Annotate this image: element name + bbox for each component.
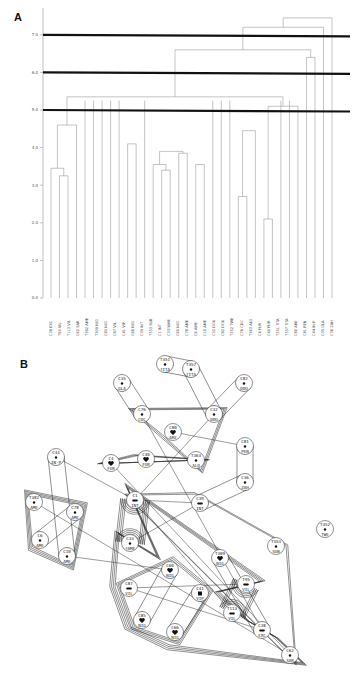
cluster-network-diagram: T351?ITAT357?ITAC35GLAC82DOUC76CDCC32DOU… bbox=[0, 0, 363, 680]
node-group-label: FUR bbox=[142, 462, 150, 467]
node-id-label: T352 bbox=[320, 522, 331, 527]
node-group-label: PEN bbox=[241, 449, 249, 454]
node-group-label: NIG bbox=[171, 635, 179, 640]
node-group-label: SAR bbox=[286, 658, 294, 663]
network-node-t353: T353SUB bbox=[268, 538, 285, 555]
dot-marker-icon bbox=[190, 368, 192, 370]
node-id-label: C10 bbox=[63, 549, 71, 554]
node-group-label: AME bbox=[36, 543, 44, 548]
network-node-t351: T351?ITA bbox=[157, 356, 174, 373]
network-node-c33: C33?AME bbox=[122, 535, 139, 552]
dot-marker-icon bbox=[244, 481, 246, 483]
node-group-label: TWE bbox=[321, 532, 329, 537]
node-group-label: AME bbox=[71, 515, 79, 520]
dot-marker-icon bbox=[141, 413, 143, 415]
node-id-label: C38 bbox=[258, 623, 266, 628]
network-node-c76: C76CDC bbox=[134, 406, 151, 423]
network-node-c62: C62SAR bbox=[282, 647, 299, 664]
node-group-label: ?AME bbox=[125, 546, 136, 551]
network-node-t95: T95VIL bbox=[238, 576, 255, 593]
cluster-link-line bbox=[56, 457, 135, 500]
network-node-c66: C66NIG bbox=[167, 624, 184, 641]
node-group-label: DOU bbox=[240, 386, 248, 391]
node-id-label: C82 bbox=[240, 376, 248, 381]
network-node-c82: C82DOU bbox=[236, 375, 253, 392]
node-group-label: INT bbox=[131, 503, 139, 508]
node-group-label: SUB bbox=[272, 549, 280, 554]
node-group-label: VIL bbox=[125, 591, 133, 596]
network-node-c4: C4FUR bbox=[103, 455, 120, 472]
node-group-label: AME bbox=[63, 559, 71, 564]
network-node-c6: C6AME bbox=[32, 532, 49, 549]
node-id-label: C85 bbox=[138, 613, 146, 618]
pair-marker-icon bbox=[126, 588, 132, 590]
pair-marker-icon bbox=[243, 584, 249, 586]
node-id-label: T363 bbox=[191, 453, 202, 458]
node-id-label: C33 bbox=[126, 536, 134, 541]
dot-marker-icon bbox=[39, 539, 41, 541]
node-group-label: VIL bbox=[242, 587, 250, 592]
node-id-label: C62 bbox=[286, 648, 294, 653]
node-id-label: T351 bbox=[160, 357, 171, 362]
network-node-t309: T309NIG bbox=[212, 550, 229, 567]
node-id-label: C87 bbox=[125, 581, 133, 586]
dot-marker-icon bbox=[275, 545, 277, 547]
dot-marker-icon bbox=[243, 382, 245, 384]
network-node-t113: T113VIL bbox=[224, 605, 241, 622]
network-node-c85: C85NIG bbox=[134, 612, 151, 629]
node-group-label: CDC bbox=[138, 417, 146, 422]
network-node-c36: C36ZAH bbox=[237, 474, 254, 491]
node-group-label: VIL bbox=[228, 616, 236, 621]
node-id-label: C36 bbox=[241, 475, 249, 480]
network-node-c44: C44IN-P bbox=[48, 449, 65, 466]
pair-marker-icon bbox=[229, 613, 235, 615]
node-group-label: DOU bbox=[210, 417, 218, 422]
dot-marker-icon bbox=[195, 459, 197, 461]
dot-marker-icon bbox=[66, 555, 68, 557]
node-id-label: C35 bbox=[118, 376, 126, 381]
node-id-label: C6 bbox=[37, 533, 43, 538]
network-node-c78: C78AME bbox=[67, 504, 84, 521]
pair-marker-icon bbox=[132, 500, 138, 502]
node-id-label: T353 bbox=[271, 539, 282, 544]
node-id-label: C78 bbox=[71, 505, 79, 510]
dot-marker-icon bbox=[121, 382, 123, 384]
node-id-label: C80 bbox=[169, 425, 177, 430]
network-node-c39: C39INT bbox=[192, 495, 209, 512]
node-id-label: T95 bbox=[242, 577, 250, 582]
network-node-t363: T363ALO bbox=[188, 452, 205, 469]
node-id-label: C4 bbox=[108, 456, 114, 461]
network-node-c81: C81PEN bbox=[237, 438, 254, 455]
network-node-c80: C80ARE bbox=[165, 424, 182, 441]
node-group-label: ?ITA bbox=[186, 372, 197, 377]
dot-marker-icon bbox=[129, 542, 131, 544]
dot-marker-icon bbox=[289, 654, 291, 656]
node-id-label: C40 bbox=[142, 452, 150, 457]
dot-marker-icon bbox=[74, 511, 76, 513]
node-id-label: T113 bbox=[227, 606, 238, 611]
dot-marker-icon bbox=[164, 363, 166, 365]
cluster-outline-large bbox=[113, 487, 303, 664]
network-node-c1: C1INT bbox=[127, 492, 144, 509]
node-group-label: ?ITA bbox=[160, 367, 171, 372]
network-node-c35: C35GLA bbox=[114, 375, 131, 392]
node-group-label: VIP bbox=[196, 596, 204, 601]
dot-marker-icon bbox=[213, 413, 215, 415]
pair-marker-icon bbox=[259, 630, 265, 632]
network-node-t357: T357?ITA bbox=[183, 361, 200, 378]
network-node-t382: T382AME bbox=[26, 494, 43, 511]
node-id-label: C76 bbox=[138, 407, 146, 412]
network-node-c40: C40FUR bbox=[138, 451, 155, 468]
dot-marker-icon bbox=[33, 501, 35, 503]
node-id-label: C44 bbox=[52, 450, 60, 455]
cluster-link-line bbox=[173, 432, 245, 446]
dot-marker-icon bbox=[244, 445, 246, 447]
node-id-label: C66 bbox=[171, 625, 179, 630]
node-group-label: FUR bbox=[107, 466, 115, 471]
node-group-label: GLA bbox=[118, 386, 126, 391]
node-id-label: C32 bbox=[210, 407, 218, 412]
cluster-link-line bbox=[67, 556, 170, 570]
node-id-label: C39 bbox=[196, 496, 204, 501]
node-group-label: EXC bbox=[258, 633, 266, 638]
node-group-label: NIG bbox=[216, 561, 224, 566]
